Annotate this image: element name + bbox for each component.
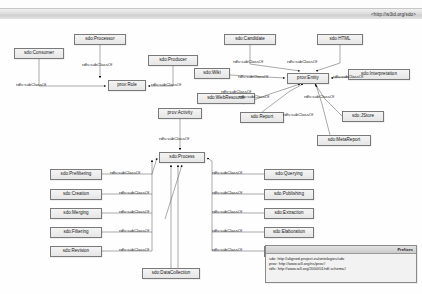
node-sdo-wiki[interactable]: sdo:Wiki: [194, 68, 230, 79]
node-sdo-querying[interactable]: sdo:Querying: [264, 169, 314, 180]
edge-label-candidate-entity: rdfs:subClassOf: [233, 60, 263, 64]
node-prov-entity[interactable]: prov:Entity: [287, 73, 329, 84]
node-sdo-extraction[interactable]: sdo:Extraction: [264, 208, 314, 219]
node-sdo-revision[interactable]: sdo:Revision: [50, 246, 102, 257]
node-sdo-prefiltering[interactable]: sdo:Prefiltering: [50, 169, 102, 180]
edge-label-elaboration: rdfs:subClassOf: [212, 229, 242, 233]
prefixes-legend-body: sdo: http://aligned-project.eu/ontologie…: [266, 254, 416, 274]
node-sdo-process[interactable]: sdo:Process: [159, 152, 205, 163]
edge-label-prefiltering: rdfs:subClassOf: [110, 171, 140, 175]
edge-label-interpretation-entity: rdfs:subClassOf: [333, 75, 363, 79]
ontology-uri-label: <http://w3id.org/sdo>: [371, 9, 416, 20]
node-sdo-report[interactable]: sdo:Report: [240, 112, 284, 123]
edge-label-revision: rdfs:subClassOf: [119, 248, 149, 252]
node-sdo-elaboration[interactable]: sdo:Elaboration: [264, 227, 314, 238]
node-prov-activity[interactable]: prov:Activity: [158, 108, 202, 119]
edge-label-filtering: rdfs:subClassOf: [119, 229, 149, 233]
edge-label-consumer-role: rdfs:subClassOf: [16, 83, 46, 87]
node-sdo-producer[interactable]: sdo:Producer: [148, 55, 198, 66]
edge-label-activity-process: rdfs:subClassOf: [159, 137, 189, 141]
diagram-canvas: <http://w3id.org/sdo>: [0, 0, 422, 294]
node-sdo-processor[interactable]: sdo:Processor: [74, 34, 126, 45]
node-sdo-html[interactable]: sdo:HTML: [317, 34, 363, 45]
node-sdo-merging[interactable]: sdo:Merging: [50, 208, 102, 219]
node-prov-role[interactable]: prov:Role: [108, 80, 146, 91]
edge-label-jstore-entity: rdfs:subClassOf: [304, 95, 334, 99]
edge-label-report-entity: rdfs:subClassOf: [239, 95, 269, 99]
edge-label-metareport-entity: rdfs:subClassOf: [283, 113, 313, 117]
edge-label-html-entity: rdfs:subClassOf: [287, 60, 317, 64]
edge-label-updating: rdfs:subClassOf: [212, 248, 242, 252]
edge-label-publishing: rdfs:subClassOf: [212, 191, 242, 195]
edge-label-merging: rdfs:subClassOf: [119, 210, 149, 214]
node-sdo-publishing[interactable]: sdo:Publishing: [264, 189, 314, 200]
edge-label-wiki-entity: rdfs:subClassOf: [238, 75, 268, 79]
diagram-surface: sdo:Consumer sdo:Processor prov:Role sdo…: [0, 19, 422, 294]
prefixes-legend: Prefixes sdo: http://aligned-project.eu/…: [265, 245, 417, 283]
node-sdo-creation[interactable]: sdo:Creation: [50, 189, 102, 200]
edge-label-processor-role: rdfs:subClassOf: [82, 63, 112, 67]
node-sdo-filtering[interactable]: sdo:Filtering: [50, 227, 102, 238]
prefixes-legend-title: Prefixes: [266, 246, 416, 254]
node-sdo-candidate[interactable]: sdo:Candidate: [224, 34, 276, 45]
edge-label-extraction: rdfs:subClassOf: [212, 210, 242, 214]
node-sdo-metareport[interactable]: sdo:MetaReport: [317, 135, 371, 146]
edge-label-creation: rdfs:subClassOf: [119, 191, 149, 195]
edge-label-producer-role: rdfs:subClassOf: [151, 83, 181, 87]
prefix-line-rdfs: rdfs: http://www.w3.org/2000/01/rdf-sche…: [269, 266, 413, 271]
node-sdo-jstore[interactable]: sdo:JStore: [342, 111, 384, 122]
node-sdo-consumer[interactable]: sdo:Consumer: [14, 48, 64, 59]
edge-label-querying: rdfs:subClassOf: [212, 171, 242, 175]
node-sdo-datacollection[interactable]: sdo:DataCollection: [142, 268, 200, 279]
